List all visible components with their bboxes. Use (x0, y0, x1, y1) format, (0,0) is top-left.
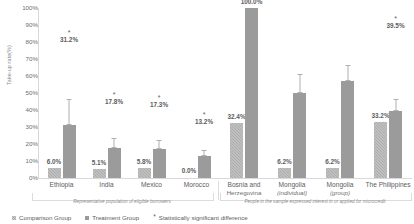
significance-star: * (158, 94, 161, 101)
bar-comparison[interactable]: 6.2% (278, 168, 291, 179)
legend-swatch-icon (85, 216, 89, 220)
bar-wrap-comparison: 5.1% (93, 8, 106, 178)
error-bar (347, 65, 348, 81)
bar-wrap-comparison: 6.0% (48, 8, 61, 178)
bar-comparison[interactable]: 0.0% (183, 177, 196, 178)
x-label-india: India (84, 181, 129, 189)
bar-value-label: 6.0% (47, 159, 62, 165)
bar-group-mongolia-group: 6.2% 57.0% * (316, 8, 364, 178)
bar-wrap-treatment: 100.0% * (245, 8, 258, 178)
bar-comparison[interactable]: 5.1% (93, 169, 106, 178)
bar-wrap-comparison: 0.0% (183, 8, 196, 178)
error-bar (204, 150, 205, 156)
y-tick-60: 60% (10, 73, 38, 79)
bar-wrap-treatment: 17.8% * (108, 8, 121, 178)
legend-item-comparison-group[interactable]: Comparison Group (12, 214, 71, 221)
panel-divider (218, 181, 219, 200)
y-axis-ticks: 100% 90% 80% 70% 60% 50% 40% 30% 20% 10%… (10, 0, 38, 180)
bar-wrap-treatment: 39.5% * (389, 8, 402, 178)
bar-wrap-comparison: 6.2% (278, 8, 291, 178)
significance-star: * (68, 29, 71, 36)
bar-wrap-treatment: 31.2% * (63, 8, 76, 178)
plot-area: 6.0% 31.2% * 5.1% 17.8% (39, 8, 412, 178)
panel-note-left: Representative population of eligible bo… (32, 200, 212, 205)
bar-value-label: 6.2% (277, 159, 292, 165)
bar-comparison[interactable]: 6.0% (48, 168, 61, 178)
bar-value-label: 32.4% (227, 114, 245, 120)
bar-treatment[interactable]: 100.0% * (245, 8, 258, 178)
y-tick-30: 30% (10, 124, 38, 130)
bar-value-label: 17.8% (105, 99, 123, 105)
x-axis-line (38, 178, 412, 179)
error-bar (159, 140, 160, 149)
y-tick-10: 10% (10, 158, 38, 164)
significance-star: * (203, 111, 206, 118)
bar-value-label: 100.0% (241, 0, 263, 5)
bar-value-label: 6.2% (325, 159, 340, 165)
bar-wrap-treatment: 17.3% * (153, 8, 166, 178)
x-label-mexico: Mexico (129, 181, 174, 189)
bar-group-india: 5.1% 17.8% * (84, 8, 129, 178)
bar-treatment[interactable]: 17.3% * (153, 149, 166, 178)
bar-wrap-treatment: 57.0% * (341, 8, 354, 178)
bar-wrap-comparison: 6.2% (326, 8, 339, 178)
error-bar (69, 99, 70, 125)
legend-label: Treatment Group (92, 214, 139, 221)
bar-wrap-comparison: 5.8% (138, 8, 151, 178)
y-tick-40: 40% (10, 107, 38, 113)
bar-value-label: 13.2% (195, 119, 213, 125)
bar-treatment[interactable]: 31.2% * (63, 125, 76, 178)
legend-label: Statistically significant difference (159, 214, 248, 221)
bar-treatment[interactable]: 13.2% * (198, 156, 211, 178)
legend-item-treatment-group[interactable]: Treatment Group (85, 214, 139, 221)
bar-value-label: 17.3% (150, 102, 168, 108)
bar-treatment[interactable]: 50.0% * (293, 93, 306, 178)
bar-value-label: 39.5% (386, 23, 404, 29)
bar-comparison[interactable]: 32.4% (230, 123, 243, 178)
x-label-morocco: Morocco (174, 181, 219, 189)
bar-group-mongolia-individual: 6.2% 50.0% * (268, 8, 316, 178)
bar-wrap-treatment: 50.0% * (293, 8, 306, 178)
bar-group-ethiopia: 6.0% 31.2% * (39, 8, 84, 178)
bar-treatment[interactable]: 17.8% * (108, 148, 121, 178)
bar-group-mexico: 5.8% 17.3% * (129, 8, 174, 178)
y-tick-0: 0% (10, 175, 38, 181)
bar-comparison[interactable]: 5.8% (138, 168, 151, 178)
bar-comparison[interactable]: 6.2% (326, 168, 339, 179)
x-label-line1: Mongolia (327, 181, 354, 188)
bar-treatment[interactable]: 39.5% * (389, 111, 402, 178)
y-tick-90: 90% (10, 22, 38, 28)
bar-value-label: 33.2% (371, 113, 389, 119)
bar-wrap-treatment: 13.2% * (198, 8, 211, 178)
bar-value-label: 5.8% (137, 159, 152, 165)
bar-value-label: 31.2% (60, 37, 78, 43)
x-label-ethiopia: Ethiopia (39, 181, 84, 189)
bar-comparison[interactable]: 33.2% (374, 122, 387, 178)
bar-value-label: 5.1% (92, 160, 107, 166)
y-tick-50: 50% (10, 90, 38, 96)
y-tick-80: 80% (10, 39, 38, 45)
y-tick-100: 100% (10, 5, 38, 11)
bar-wrap-comparison: 33.2% (374, 8, 387, 178)
bar-group-bosnia-and-herzegovina: 32.4% 100.0% * (220, 8, 268, 178)
legend-item-significance: * Statistically significant difference (153, 214, 248, 221)
chart-legend: Comparison Group Treatment Group * Stati… (12, 214, 262, 221)
legend-swatch-icon (12, 216, 16, 220)
bar-group-morocco: 0.0% 13.2% * (174, 8, 219, 178)
significance-star: * (394, 15, 397, 22)
panel-note-right: People in the sample expressed interest … (220, 200, 410, 205)
x-label-the-philippines: The Philippines (363, 181, 413, 189)
error-bar (114, 138, 115, 148)
x-label-line1: Mongolia (279, 181, 306, 188)
x-label-line1: Bosnia and (228, 181, 261, 188)
y-tick-20: 20% (10, 141, 38, 147)
bar-value-label: 0.0% (182, 168, 197, 174)
error-bar (395, 99, 396, 111)
bar-treatment[interactable]: 57.0% * (341, 81, 354, 178)
bar-group-the-philippines: 33.2% 39.5% * (364, 8, 412, 178)
legend-label: Comparison Group (19, 214, 71, 221)
significance-star: * (113, 91, 116, 98)
y-tick-70: 70% (10, 56, 38, 62)
chart-container: Take-up rate(%) 100% 90% 80% 70% 60% 50%… (0, 0, 414, 224)
asterisk-icon: * (153, 214, 156, 221)
